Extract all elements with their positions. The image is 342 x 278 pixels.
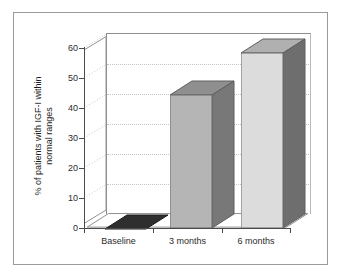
- x-tickmark-3: [290, 228, 291, 233]
- plot-area: 0 10 20 30 40 50 60: [0, 0, 342, 278]
- y-tickmark-30: [79, 138, 84, 139]
- x-label-baseline: Baseline: [84, 236, 153, 247]
- x-label-3-months: 3 months: [153, 236, 222, 247]
- y-axis-title-text: % of patients with IGF-I within normal r…: [33, 56, 55, 216]
- y-tickmark-10: [79, 198, 84, 199]
- y-axis-line: [84, 47, 85, 228]
- x-tickmark-0: [84, 228, 85, 233]
- y-tickmark-20: [79, 168, 84, 169]
- x-tickmark-1: [153, 228, 154, 233]
- bar-3-months[interactable]: [170, 79, 236, 231]
- chart-figure: 0 10 20 30 40 50 60: [0, 0, 342, 278]
- y-tickmark-40: [79, 108, 84, 109]
- depth-connectors: [84, 33, 108, 233]
- x-label-6-months: 6 months: [222, 236, 290, 247]
- x-tickmark-2: [222, 228, 223, 233]
- x-axis-line: [84, 228, 290, 229]
- y-tick-label-0: 0: [50, 224, 78, 233]
- y-tickmark-50: [79, 78, 84, 79]
- y-tickmark-60: [79, 48, 84, 49]
- bar-6-months[interactable]: [241, 37, 307, 231]
- y-axis-title: % of patients with IGF-I within normal r…: [22, 0, 66, 56]
